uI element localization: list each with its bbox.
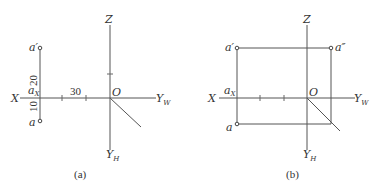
dimension-10: 10	[27, 101, 39, 113]
dimension-30: 30	[70, 85, 82, 97]
point-a-double-prime	[329, 46, 333, 50]
origin-label: O	[112, 86, 121, 99]
ax-label: aX	[224, 84, 237, 98]
dimension-20: 20	[27, 75, 39, 87]
point-a-prime	[235, 46, 239, 50]
origin-label: O	[309, 86, 318, 99]
yw-axis-label: YW	[354, 92, 369, 107]
yh-axis-label: YH	[303, 148, 317, 163]
a-double-prime-label: a″	[335, 41, 347, 54]
caption-b: (b)	[286, 168, 299, 181]
point-a-prime	[38, 46, 42, 50]
projection-diagram: Z X O YW YH a′ a aX 30 20 10 (a) Z X O Y…	[0, 0, 377, 189]
z-axis-label: Z	[104, 13, 113, 26]
caption-a: (a)	[74, 168, 87, 181]
diagonal-45-line	[307, 98, 340, 131]
z-axis-label: Z	[302, 13, 311, 26]
yh-axis-label: YH	[106, 148, 120, 163]
diagonal-45-line	[110, 98, 141, 127]
panel-a: Z X O YW YH a′ a aX 30 20 10 (a)	[10, 13, 171, 181]
yw-axis-label: YW	[156, 92, 171, 107]
point-a	[235, 122, 239, 126]
point-a	[38, 119, 42, 123]
a-label: a	[226, 121, 233, 134]
x-axis-label: X	[207, 92, 217, 105]
a-prime-label: a′	[225, 41, 235, 54]
x-axis-label: X	[10, 92, 20, 105]
a-label: a	[29, 116, 36, 129]
panel-b: Z X O YW YH a′ a″ a aX (b)	[207, 13, 369, 181]
a-prime-label: a′	[29, 41, 39, 54]
